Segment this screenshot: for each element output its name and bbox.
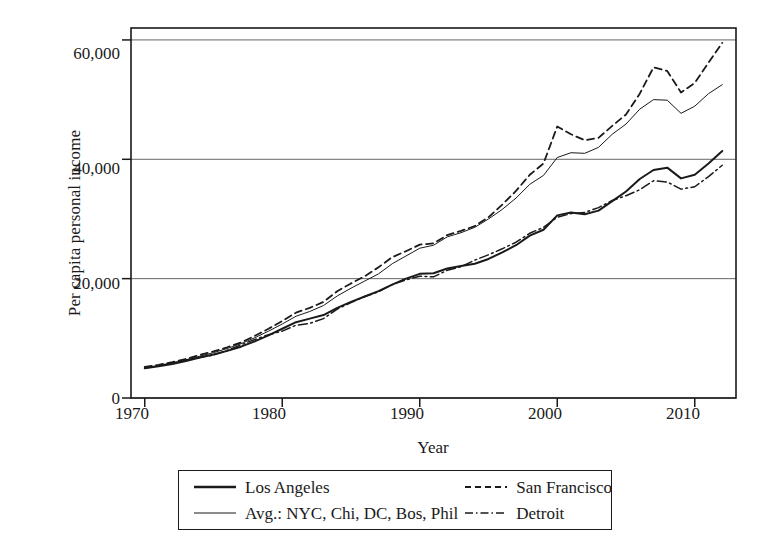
- series-line-los-angeles: [145, 151, 723, 368]
- series-line-avg-nyc-chi-dc-bos-phil: [145, 85, 723, 368]
- legend-item-detroit: Detroit: [464, 505, 612, 522]
- legend-label: Detroit: [516, 505, 564, 522]
- series-line-detroit: [145, 165, 723, 368]
- legend-item-los-angeles: Los Angeles: [193, 479, 458, 496]
- legend-label: San Francisco: [516, 479, 612, 496]
- chart-legend: Los Angeles San Francisco Avg.: NYC, Chi…: [178, 470, 612, 530]
- legend-swatch-dashdot: [464, 507, 508, 519]
- series-line-san-francisco: [145, 43, 723, 367]
- legend-label: Avg.: NYC, Chi, DC, Bos, Phil: [245, 505, 458, 522]
- legend-swatch-solid-thin: [193, 507, 237, 519]
- legend-swatch-dashed: [464, 481, 508, 493]
- chart-figure: Per capita personal income 60,000 40,000…: [0, 0, 777, 560]
- legend-label: Los Angeles: [245, 479, 330, 496]
- legend-swatch-solid-thick: [193, 481, 237, 493]
- legend-item-avg-cities: Avg.: NYC, Chi, DC, Bos, Phil: [193, 505, 458, 522]
- legend-item-san-francisco: San Francisco: [464, 479, 612, 496]
